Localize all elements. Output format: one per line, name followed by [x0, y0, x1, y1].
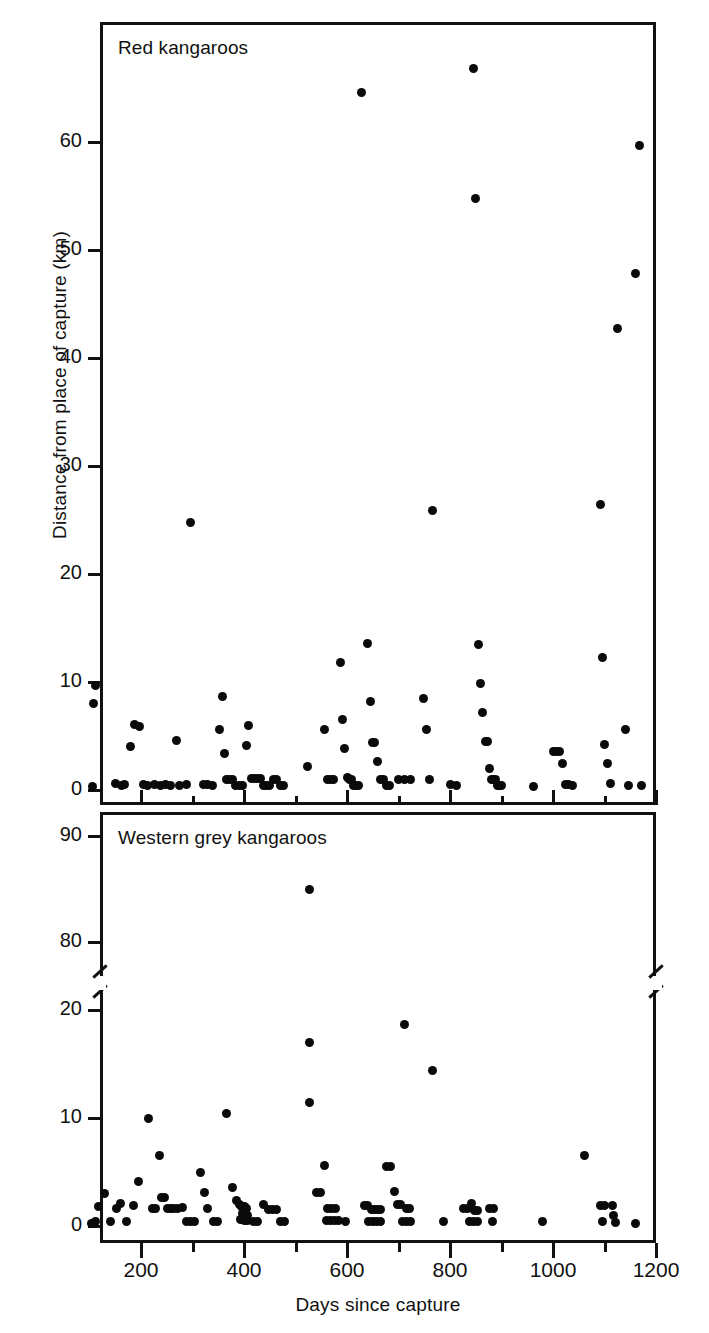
y-tick-label-text: 20 [22, 561, 82, 584]
data-point [320, 725, 329, 734]
data-point [279, 781, 288, 790]
data-point [598, 653, 607, 662]
x-tick-label-1200: 1200 [611, 1258, 701, 1282]
y-tick-label-text: 90 [22, 823, 82, 846]
data-point [476, 679, 485, 688]
data-point [385, 781, 394, 790]
y-tick-label-text: 0 [22, 1213, 82, 1236]
data-point [452, 781, 461, 790]
x-tick-800 [449, 1243, 452, 1258]
x-tick-1000 [552, 1243, 555, 1258]
panel-title-red-kangaroos: Red kangaroos [118, 37, 248, 59]
x-tick-minor-900 [501, 1243, 504, 1252]
x-tick-boundary-1200 [655, 790, 658, 805]
data-point [357, 88, 366, 97]
data-point [305, 885, 314, 894]
data-point [220, 749, 229, 758]
data-point [489, 1204, 498, 1213]
y-tick-label-text: 40 [22, 345, 82, 368]
data-point [558, 759, 567, 768]
x-tick-minor-300 [192, 1243, 195, 1252]
axis-break-gap-left [97, 976, 106, 990]
x-tick-boundary-900 [501, 796, 504, 805]
y-tick-top-60 [88, 141, 101, 144]
data-point [172, 736, 181, 745]
data-point [215, 725, 224, 734]
x-tick-400 [243, 1243, 246, 1258]
data-point [186, 518, 195, 527]
data-point [390, 1187, 399, 1196]
data-point [635, 141, 644, 150]
x-tick-label-1000: 1000 [508, 1258, 598, 1282]
data-point [428, 1066, 437, 1075]
data-point [428, 506, 437, 515]
data-point [178, 1203, 187, 1212]
data-point [329, 775, 338, 784]
panel-title-western-grey-kangaroos: Western grey kangaroos [118, 827, 327, 849]
x-tick-minor-500 [295, 1243, 298, 1252]
data-point [488, 1217, 497, 1226]
data-point [400, 1020, 409, 1029]
data-point [91, 681, 100, 690]
data-point [406, 775, 415, 784]
y-tick-label-text: 0 [22, 777, 82, 800]
y-tick-bottom-80 [88, 941, 101, 944]
y-tick-label-text: 20 [22, 997, 82, 1020]
data-point [425, 775, 434, 784]
data-point [316, 1188, 325, 1197]
data-point [419, 694, 428, 703]
axis-break-gap-right [653, 976, 662, 990]
y-tick-bottom-90 [88, 835, 101, 838]
data-point [253, 1217, 262, 1226]
data-point [213, 1217, 222, 1226]
data-point [244, 721, 253, 730]
x-tick-boundary-500 [295, 796, 298, 805]
x-tick-200 [140, 1243, 143, 1258]
data-point [603, 759, 612, 768]
x-tick-boundary-400 [243, 790, 246, 805]
data-point [208, 781, 217, 790]
data-point [106, 1217, 115, 1226]
panel-western-grey-kangaroos [100, 812, 656, 1243]
data-point [242, 741, 251, 750]
data-point [471, 194, 480, 203]
data-point [88, 782, 97, 791]
data-point [89, 699, 98, 708]
x-tick-boundary-200 [140, 790, 143, 805]
x-tick-boundary-300 [192, 796, 195, 805]
y-tick-label-text: 80 [22, 929, 82, 952]
x-tick-minor-700 [398, 1243, 401, 1252]
data-point [624, 781, 633, 790]
data-point [218, 692, 227, 701]
y-tick-label-text: 50 [22, 237, 82, 260]
data-point [116, 1199, 125, 1208]
y-tick-label-text: 10 [22, 1105, 82, 1128]
data-point [320, 1161, 329, 1170]
y-tick-top-20 [88, 573, 101, 576]
data-point [280, 1217, 289, 1226]
x-tick-label-400: 400 [199, 1258, 289, 1282]
panel-red-kangaroos [100, 22, 656, 805]
x-tick-600 [346, 1243, 349, 1258]
scatter-figure: Distance from place of capture (km) Days… [0, 0, 709, 1333]
x-tick-label-600: 600 [302, 1258, 392, 1282]
data-point [485, 764, 494, 773]
data-point [228, 1183, 237, 1192]
y-tick-bottom-20 [88, 1009, 101, 1012]
data-point [182, 780, 191, 789]
data-point [422, 725, 431, 734]
y-tick-label-text: 10 [22, 669, 82, 692]
data-point [155, 1151, 164, 1160]
data-point [386, 1162, 395, 1171]
data-point [621, 725, 630, 734]
data-point [196, 1168, 205, 1177]
y-tick-top-50 [88, 249, 101, 252]
y-tick-label-text: 60 [22, 129, 82, 152]
x-tick-1200 [655, 1243, 658, 1258]
data-point [303, 762, 312, 771]
x-axis-label: Days since capture [100, 1294, 656, 1316]
x-tick-boundary-600 [346, 790, 349, 805]
data-point [144, 1114, 153, 1123]
x-tick-boundary-1100 [604, 796, 607, 805]
x-tick-boundary-700 [398, 796, 401, 805]
